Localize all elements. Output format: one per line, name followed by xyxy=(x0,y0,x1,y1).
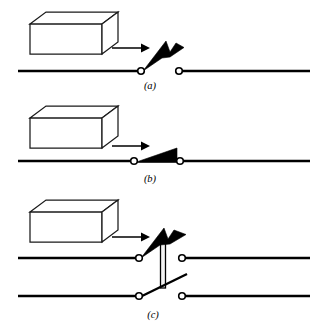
panel-c-label: (c) xyxy=(147,309,159,321)
panel-b: (b) xyxy=(18,106,310,185)
arrow-head-icon xyxy=(141,142,150,151)
panel-c-upper-right-terminal xyxy=(179,255,186,262)
panel-b-label: (b) xyxy=(144,173,157,185)
panel-b-left-terminal xyxy=(131,158,138,165)
panel-b-right-terminal xyxy=(177,158,184,165)
panel-c: (c) xyxy=(18,200,310,321)
arrow-head-icon xyxy=(141,44,150,53)
panel-c-upper-left-terminal xyxy=(136,255,143,262)
panel-c-lower-left-terminal xyxy=(136,293,143,300)
panel-a: (a) xyxy=(18,12,310,92)
figure-container: (a) (b) xyxy=(0,0,327,335)
arrow-head-icon xyxy=(141,233,150,242)
switch-diagram-svg: (a) (b) xyxy=(0,0,327,335)
block-front-face xyxy=(30,212,102,242)
panel-b-block xyxy=(30,106,118,148)
panel-c-block xyxy=(30,200,118,242)
panel-a-label: (a) xyxy=(144,80,157,92)
panel-a-left-terminal xyxy=(138,68,145,75)
panel-b-motion-arrow xyxy=(112,142,150,151)
panel-a-block xyxy=(30,12,118,54)
panel-c-motion-arrow xyxy=(112,233,150,242)
block-front-face xyxy=(30,24,102,54)
panel-a-lever xyxy=(143,41,184,71)
panel-a-right-terminal xyxy=(176,68,183,75)
block-front-face xyxy=(30,118,102,148)
panel-c-lower-right-terminal xyxy=(179,293,186,300)
panel-a-motion-arrow xyxy=(112,44,150,53)
panel-c-insulated-rod xyxy=(161,241,166,288)
